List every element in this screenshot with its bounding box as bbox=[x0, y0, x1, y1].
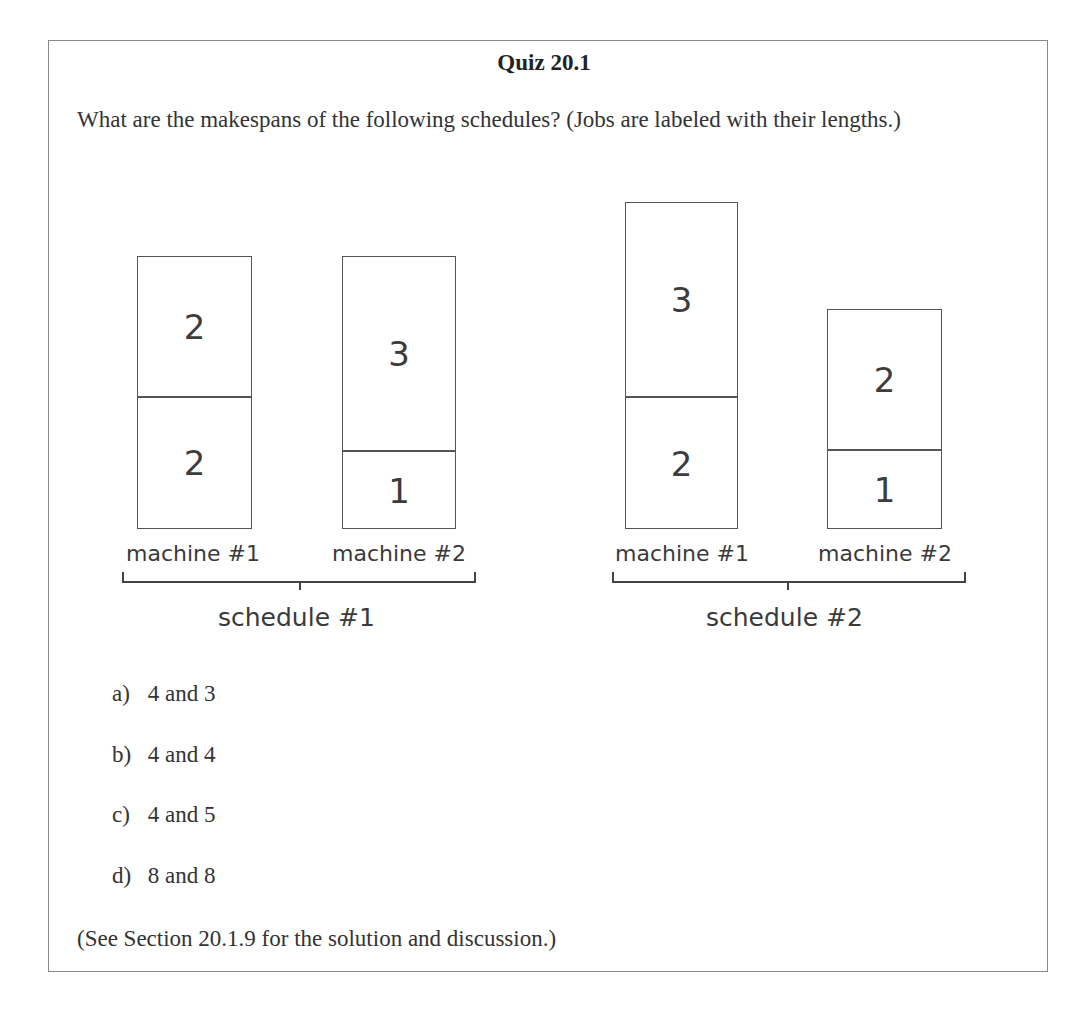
job-block: 2 bbox=[138, 397, 251, 529]
job-block: 3 bbox=[626, 203, 737, 397]
machine-label: machine #1 bbox=[615, 541, 749, 566]
schedule-1-machine-1-column: 2 2 bbox=[137, 256, 252, 529]
job-block: 2 bbox=[828, 310, 941, 450]
schedule-1-machine-2-column: 3 1 bbox=[342, 256, 456, 529]
machine-label: machine #1 bbox=[126, 541, 260, 566]
schedule-label: schedule #2 bbox=[706, 603, 863, 632]
answer-option-d[interactable]: d) 8 and 8 bbox=[112, 863, 215, 889]
option-letter: b) bbox=[112, 742, 142, 768]
option-letter: d) bbox=[112, 863, 142, 889]
machine-label: machine #2 bbox=[332, 541, 466, 566]
answer-option-a[interactable]: a) 4 and 3 bbox=[112, 681, 215, 707]
schedule-label: schedule #1 bbox=[218, 603, 375, 632]
solution-reference: (See Section 20.1.9 for the solution and… bbox=[77, 926, 556, 952]
answer-option-b[interactable]: b) 4 and 4 bbox=[112, 742, 215, 768]
schedule-2-machine-1-column: 3 2 bbox=[625, 202, 738, 529]
schedule-1-bracket bbox=[120, 570, 480, 594]
schedule-2-bracket bbox=[610, 570, 970, 594]
option-text: 4 and 5 bbox=[148, 802, 216, 827]
option-text: 8 and 8 bbox=[148, 863, 216, 888]
job-block: 3 bbox=[343, 257, 455, 451]
option-text: 4 and 3 bbox=[148, 681, 216, 706]
job-block: 1 bbox=[828, 451, 941, 529]
job-block: 2 bbox=[138, 257, 251, 397]
job-block: 1 bbox=[343, 452, 455, 530]
machine-label: machine #2 bbox=[818, 541, 952, 566]
answer-option-c[interactable]: c) 4 and 5 bbox=[112, 802, 215, 828]
quiz-title: Quiz 20.1 bbox=[0, 50, 1088, 76]
quiz-question: What are the makespans of the following … bbox=[77, 102, 1017, 137]
schedule-2-machine-2-column: 2 1 bbox=[827, 309, 942, 529]
option-letter: c) bbox=[112, 802, 142, 828]
option-letter: a) bbox=[112, 681, 142, 707]
job-block: 2 bbox=[626, 398, 737, 529]
option-text: 4 and 4 bbox=[148, 742, 216, 767]
